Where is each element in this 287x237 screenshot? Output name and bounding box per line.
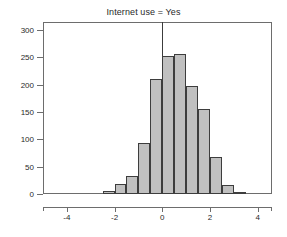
x-axis-tick <box>258 207 259 212</box>
x-axis-tick <box>67 207 68 212</box>
y-axis: 050100150200250300 <box>36 22 43 194</box>
histogram-bar <box>103 191 115 194</box>
y-axis-tick <box>37 85 43 86</box>
histogram-bar <box>150 79 162 194</box>
histogram-bar <box>198 109 210 194</box>
histogram-bar <box>210 157 222 194</box>
y-axis-tick <box>37 57 43 58</box>
y-axis-tick-label: 200 <box>21 80 34 89</box>
chart-title: Internet use = Yes <box>0 7 287 17</box>
plot-area <box>43 22 272 194</box>
x-axis-tick-label: -2 <box>111 213 118 222</box>
histogram-bar <box>174 54 186 194</box>
y-axis-tick-label: 0 <box>30 190 34 199</box>
x-axis-line <box>43 207 272 208</box>
x-axis: -4-2024 <box>43 207 272 223</box>
x-axis-end-cap <box>43 207 44 211</box>
x-axis-tick-label: 2 <box>208 213 212 222</box>
histogram-bar <box>162 56 174 194</box>
y-axis-tick-label: 150 <box>21 108 34 117</box>
y-axis-tick <box>37 139 43 140</box>
y-axis-tick <box>37 30 43 31</box>
x-axis-tick-label: -4 <box>63 213 70 222</box>
y-axis-tick-label: 100 <box>21 135 34 144</box>
x-axis-end-cap <box>271 207 272 211</box>
y-axis-tick-label: 250 <box>21 53 34 62</box>
histogram-bar <box>126 176 138 194</box>
x-axis-tick-label: 0 <box>160 213 164 222</box>
y-axis-tick-label: 300 <box>21 26 34 35</box>
histogram-bar <box>115 184 127 194</box>
y-axis-tick-label: 50 <box>25 162 34 171</box>
x-axis-tick <box>115 207 116 212</box>
y-axis-tick <box>37 112 43 113</box>
x-axis-tick-label: 4 <box>255 213 259 222</box>
x-axis-tick <box>162 207 163 212</box>
y-axis-tick <box>37 194 43 195</box>
histogram-bar <box>222 185 234 194</box>
histogram-bar <box>234 192 246 194</box>
histogram-bar <box>186 86 198 194</box>
x-axis-tick <box>210 207 211 212</box>
histogram-bar <box>138 143 150 194</box>
histogram-figure: Internet use = Yes 050100150200250300 -4… <box>0 0 287 237</box>
y-axis-tick <box>37 167 43 168</box>
reference-line <box>162 22 163 194</box>
